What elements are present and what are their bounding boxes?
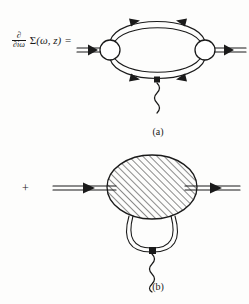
sigma-arguments: (ω, z) bbox=[36, 34, 61, 46]
coupling-dot-b bbox=[149, 247, 156, 254]
panel-a-diagram bbox=[77, 19, 246, 114]
equation-expression: ∂ ∂iω Σ(ω, z) = bbox=[12, 31, 98, 50]
upper-propagator-arc-a-inner bbox=[113, 28, 202, 45]
plus-operator: + bbox=[22, 182, 29, 194]
partial-derivative-fraction: ∂ ∂iω bbox=[12, 31, 26, 50]
equals-sign: = bbox=[65, 35, 71, 46]
panel-b-diagram bbox=[53, 155, 240, 292]
lower-loop-right-inner-b bbox=[153, 216, 173, 248]
lower-loop-left-inner-b bbox=[131, 216, 151, 248]
wavy-boson-line-a bbox=[155, 83, 160, 113]
panel-label-a: (a) bbox=[138, 126, 178, 137]
panel-label-b: (b) bbox=[138, 281, 178, 292]
vertex-circle-right-a bbox=[195, 40, 215, 60]
lower-propagator-arc-a-inner bbox=[113, 55, 202, 72]
figure-page: ∂ ∂iω Σ(ω, z) = + (a) (b) bbox=[0, 0, 249, 304]
lower-loop-left-outer-b bbox=[127, 216, 151, 252]
lower-loop-right-outer-b bbox=[153, 216, 177, 252]
coupling-dot-a bbox=[154, 77, 160, 83]
derivative-numerator: ∂ bbox=[15, 31, 23, 40]
hatched-blob-b bbox=[107, 155, 197, 219]
lower-propagator-arc-a bbox=[110, 59, 205, 79]
arrowhead-incoming-b bbox=[83, 183, 95, 194]
arrowhead-outgoing-b bbox=[210, 183, 222, 194]
arrowhead-outgoing-a bbox=[224, 45, 234, 56]
vertex-circle-left-a bbox=[100, 40, 120, 60]
upper-propagator-arc-a bbox=[110, 22, 205, 42]
derivative-denominator: ∂iω bbox=[12, 41, 26, 49]
self-energy-symbol: Σ(ω, z) bbox=[30, 35, 61, 46]
